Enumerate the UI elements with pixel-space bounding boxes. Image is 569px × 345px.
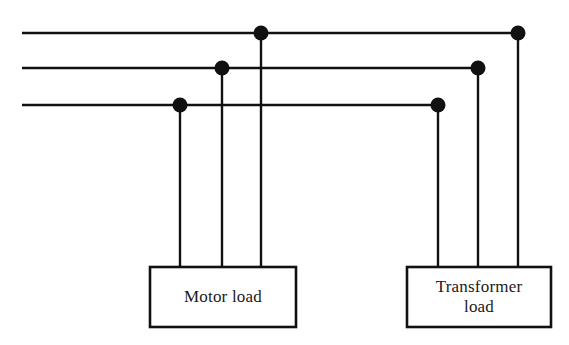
diagram-root: Motor load Transformer load: [0, 0, 569, 345]
junction-bottom-motor: [173, 98, 188, 113]
junction-top-motor: [254, 26, 269, 41]
junction-top-transformer: [511, 26, 526, 41]
junction-middle-transformer: [471, 61, 486, 76]
motor-load-label: Motor load: [150, 267, 296, 327]
junction-middle-motor: [215, 61, 230, 76]
junction-bottom-transformer: [431, 98, 446, 113]
transformer-load-label: Transformer load: [407, 267, 551, 327]
bus-lines-group: [22, 33, 518, 105]
